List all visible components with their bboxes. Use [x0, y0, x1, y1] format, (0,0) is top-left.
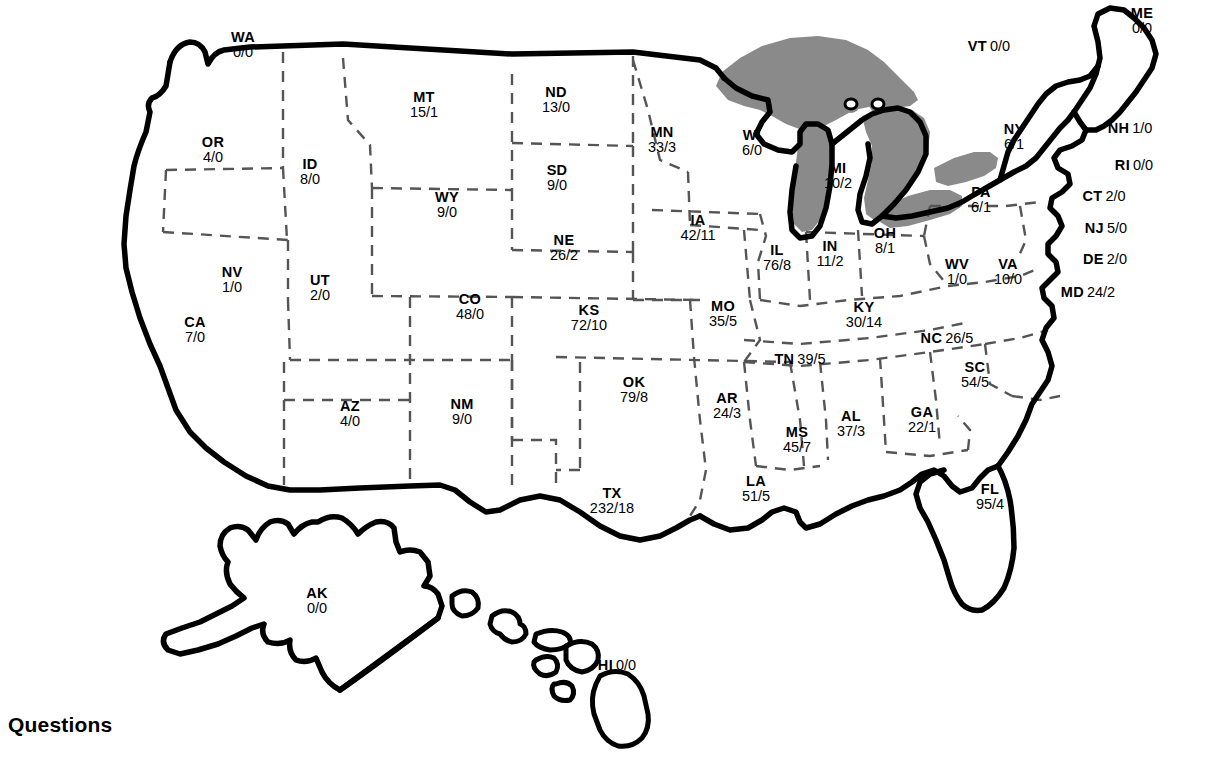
page-title: Questions — [8, 713, 112, 737]
us-map-svg — [0, 0, 1208, 762]
alaska-inset — [163, 517, 442, 690]
hawaii-inset — [452, 591, 648, 747]
map-page: WA0/0OR4/0ID8/0MT15/1WY9/0ND13/0SD9/0NE2… — [0, 0, 1208, 762]
